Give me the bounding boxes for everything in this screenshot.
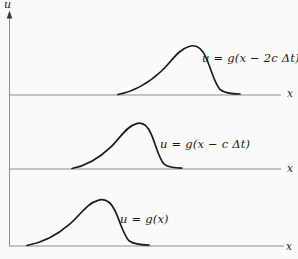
x-axis-label-row2: x	[287, 163, 293, 175]
u-axis-arrowhead-icon	[7, 11, 13, 19]
wave-propagation-figure: u u = g(x − 2c Δt) x u = g(x − c Δt) x u…	[0, 0, 298, 259]
x-axis-label-row3: x	[286, 241, 292, 253]
curve-label-row3: u = g(x)	[120, 213, 169, 226]
x-axis-label-row1: x	[287, 88, 293, 100]
curve-label-row1: u = g(x − 2c Δt)	[202, 52, 298, 65]
u-axis-label: u	[4, 0, 11, 11]
curve-label-row2: u = g(x − c Δt)	[160, 138, 250, 151]
